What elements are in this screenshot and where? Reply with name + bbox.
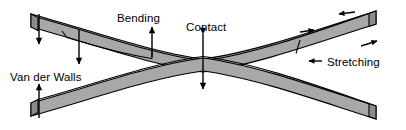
label-stretching: Stretching	[327, 57, 380, 69]
label-van-der-walls: Van der Walls	[10, 72, 82, 84]
stretch-lower-right	[361, 41, 377, 46]
lower-beam-right-cap	[369, 104, 376, 120]
label-contact: Contact	[186, 22, 226, 34]
upper-beam-left-cap	[31, 14, 38, 31]
diagram-canvas: Bending Contact Stretching Van der Walls	[0, 0, 406, 130]
upper-beam-right-cap	[369, 11, 376, 27]
lower-beam-left-cap	[31, 100, 38, 117]
label-bending: Bending	[117, 13, 160, 25]
stretch-upper-left	[339, 12, 355, 14]
